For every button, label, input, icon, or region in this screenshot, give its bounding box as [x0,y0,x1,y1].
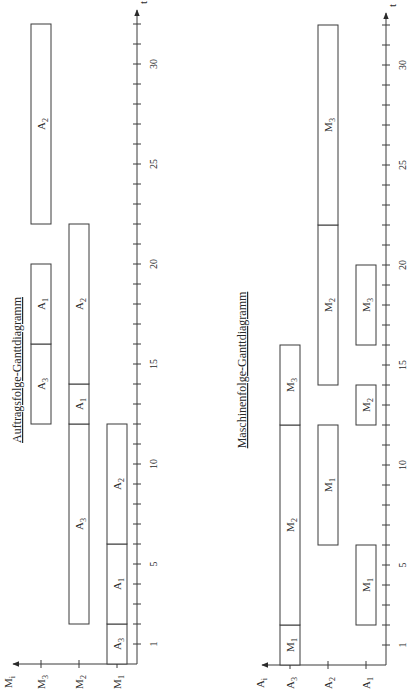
svg-text:Mi: Mi [2,675,17,688]
row-a1-bars: M1 M2 M3 [356,265,376,625]
time-axis-label: t [386,4,398,7]
row-label-m3: M3 [35,675,50,689]
resource-axis-label: Ai [254,677,269,688]
svg-text:10: 10 [397,460,408,470]
svg-text:5: 5 [397,563,408,568]
svg-text:5: 5 [148,562,159,567]
svg-text:15: 15 [397,360,408,370]
resource-axis-label: Mi [2,675,17,688]
row-label-a1: A1 [360,677,375,689]
chart-title: Maschinenfolge-Ganttdiagramm [235,291,249,448]
svg-text:30: 30 [397,60,408,70]
svg-text:30: 30 [148,59,159,69]
time-tick-labels: 1 5 10 15 20 25 30 [148,59,159,647]
row-a3-bars: M1 M2 M3 [280,345,300,665]
chart-maschinenfolge: Maschinenfolge-Ganttdiagramm t Ai A1 A2 … [235,4,408,689]
svg-text:1: 1 [397,643,408,648]
row-label-a2: A2 [322,677,337,689]
svg-text:15: 15 [148,359,159,369]
svg-text:25: 25 [148,159,159,169]
row-label-m2: M2 [73,675,88,689]
row-a2-bars: M1 M2 M3 [318,25,338,545]
row-label-a3: A3 [284,677,299,689]
svg-text:1: 1 [148,642,159,647]
row-m3-bars: A3 A1 A2 [31,24,51,424]
time-axis-label: t [137,1,149,4]
chart-auftragsfolge: Auftragsfolge-Ganttdiagramm t Mi M1 M2 M… [2,1,159,689]
svg-text:10: 10 [148,459,159,469]
svg-text:25: 25 [397,160,408,170]
svg-text:20: 20 [148,259,159,269]
svg-text:20: 20 [397,260,408,270]
time-tick-labels: 1 5 10 15 20 25 30 [397,60,408,648]
row-label-m1: M1 [111,675,126,689]
row-m1-bars: A3 A1 A2 [107,424,127,664]
svg-text:Ai: Ai [254,677,269,688]
chart-title: Auftragsfolge-Ganttdiagramm [10,296,24,443]
figure: Auftragsfolge-Ganttdiagramm t Mi M1 M2 M… [0,0,414,699]
row-m2-bars: A3 A1 A2 [69,224,89,624]
